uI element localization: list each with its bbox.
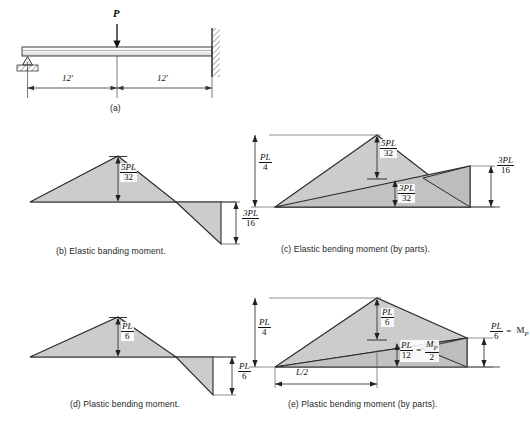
dimension-extension-lines [28, 56, 213, 98]
panel-c-label-3PL-16: 3PL 16 [497, 156, 514, 175]
ordinate-arrow-3PL16-b [221, 202, 240, 244]
dimension-label-right: 12' [157, 73, 168, 83]
panel-d-moment-diagram [8, 295, 258, 400]
plastic-moment-symbol: MP [515, 326, 530, 337]
panel-d-label-PL-6: PL 6 [121, 322, 134, 341]
fixed-wall-support-icon [212, 28, 220, 77]
panel-e-caption: (e) Plastic bending moment (by parts). [288, 399, 437, 409]
panel-e-label-PL-6-eq-MP: PL 6 = MP [490, 322, 530, 341]
panel-b-label-5PL-32: 5PL 32 [120, 163, 137, 182]
positive-moment-area-d [30, 317, 176, 357]
panel-a-caption: (a) [110, 103, 121, 113]
panel-e-label-PL-6: PL 6 [381, 308, 394, 327]
panel-a-beam-diagram [0, 0, 270, 110]
panel-c-label-3PL-32: 3PL 32 [398, 184, 415, 203]
dimension-PL6-MP-e [467, 338, 493, 367]
panel-e-span-label: L/2 [296, 367, 308, 377]
panel-d-caption: (d) Plastic bending moment. [70, 399, 180, 409]
panel-c-label-PL-4: PL 4 [259, 153, 272, 172]
dimension-line-left [28, 86, 118, 91]
negative-moment-area-d [176, 357, 213, 395]
equals-sign-e1: = [415, 346, 423, 355]
positive-moment-area-b [30, 156, 176, 202]
panel-c-caption: (c) Elastic bending moment (by parts). [281, 244, 430, 254]
panel-e-label-PL-4: PL 4 [258, 318, 271, 337]
dimension-3PL16-c [470, 166, 495, 207]
dimension-PL6-right-d [213, 357, 236, 395]
panel-e-label-PL-12-eq-MP-2: PL 12 = MP 2 [400, 340, 439, 362]
panel-b-moment-diagram [8, 140, 258, 245]
point-load-label: P [113, 8, 119, 19]
panel-b-caption: (b) Elastic banding moment. [56, 246, 166, 256]
point-load-arrow [113, 24, 120, 49]
dimension-label-left: 12' [62, 73, 73, 83]
panel-c-label-5PL-32: 5PL 32 [380, 139, 397, 158]
equals-sign-e2: = [505, 327, 513, 336]
negative-moment-area-b [176, 202, 221, 244]
dimension-line-right [117, 86, 212, 91]
